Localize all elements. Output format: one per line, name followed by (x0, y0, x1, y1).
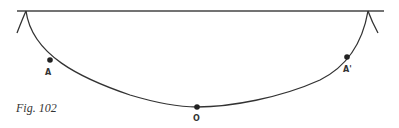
hanging-curve (26, 11, 368, 107)
point-o-label: O (193, 114, 200, 123)
right-hook (368, 11, 378, 33)
point-o-marker (194, 104, 200, 110)
point-a-prime-marker (344, 54, 350, 60)
point-a-marker (47, 57, 53, 63)
point-a-label: A (45, 68, 52, 77)
point-a-prime-label: A' (343, 65, 352, 74)
figure-caption: Fig. 102 (15, 101, 57, 115)
left-hook (17, 11, 26, 33)
catenary-diagram: A O A' Fig. 102 (0, 0, 399, 128)
